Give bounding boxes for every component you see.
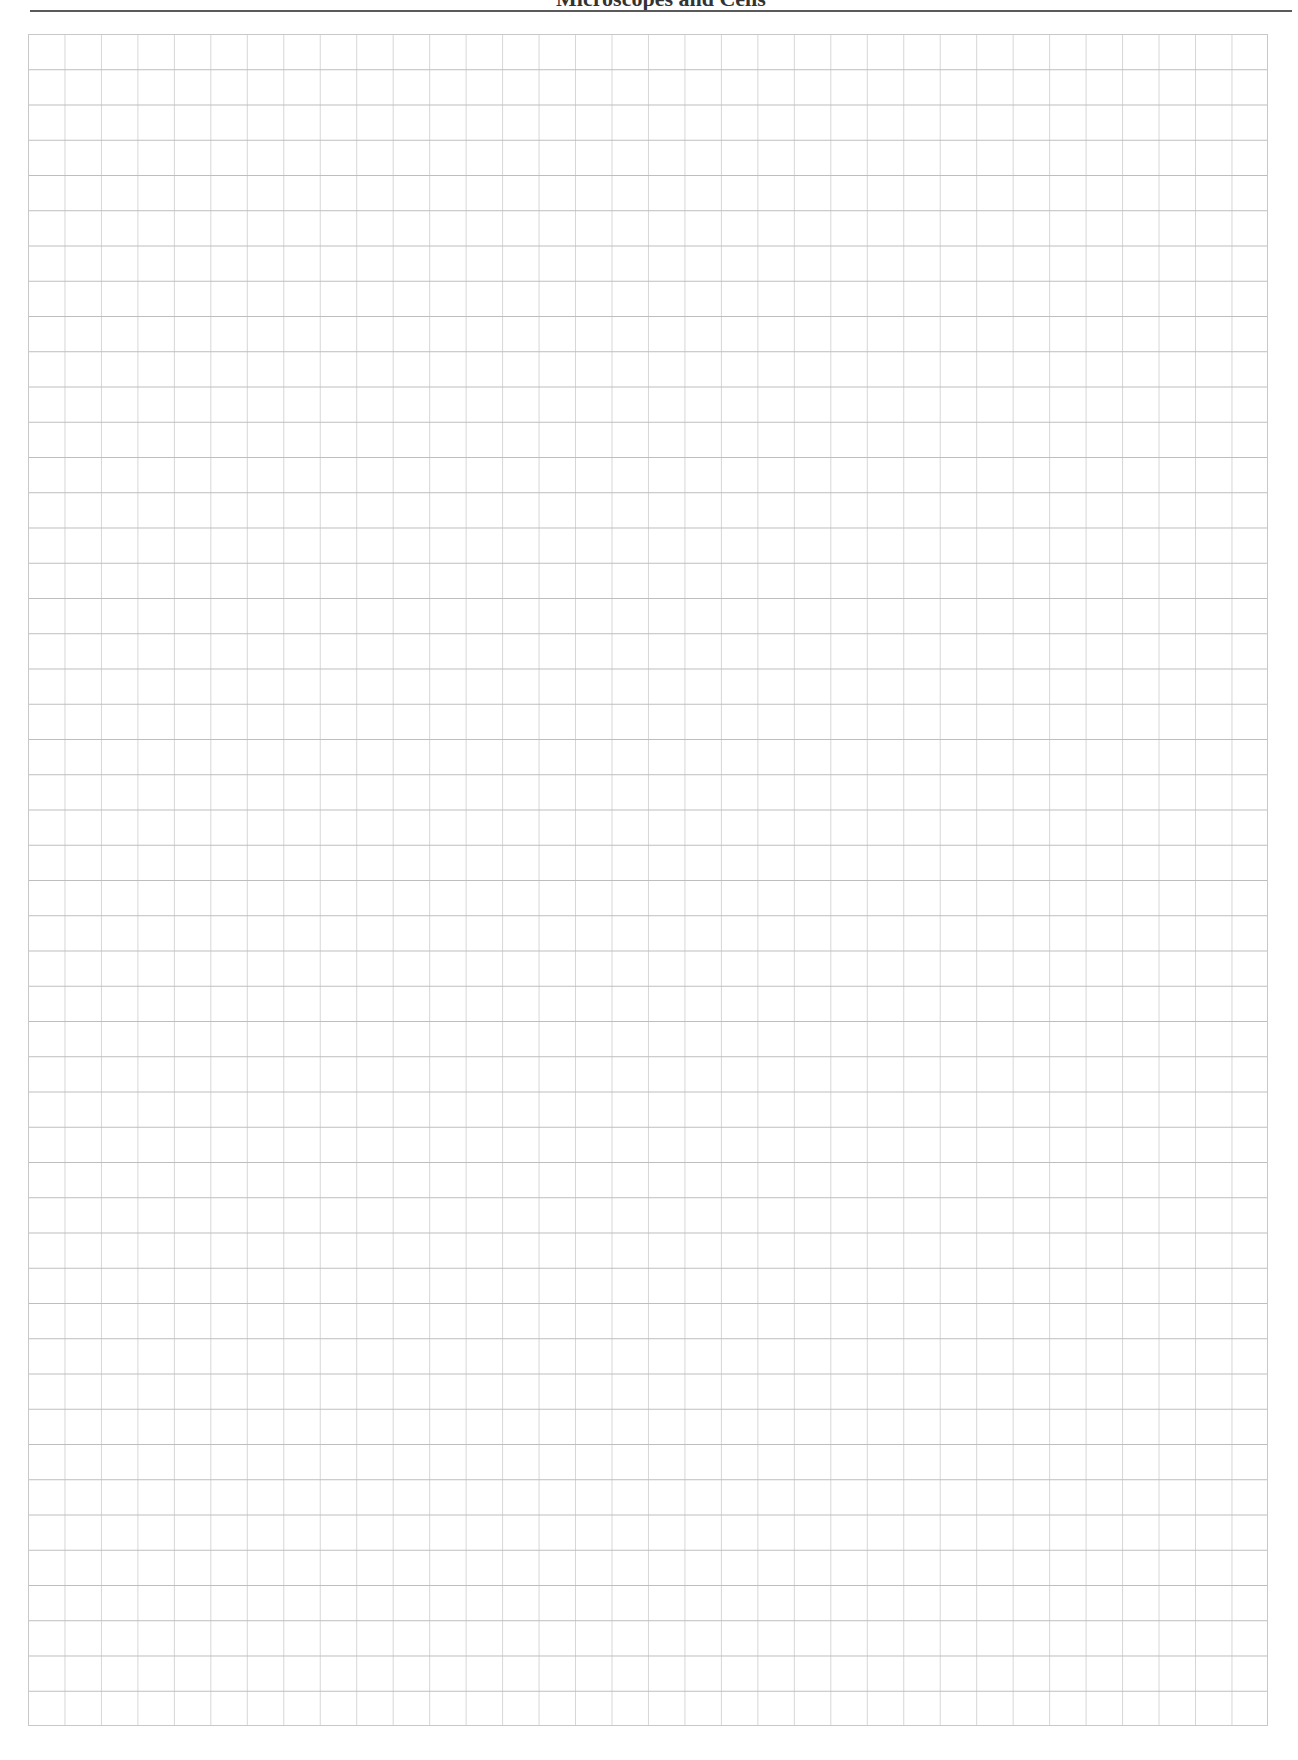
header-rule-divider xyxy=(30,10,1292,12)
graph-paper-grid xyxy=(28,34,1268,1726)
page-title: Microscopes and Cells xyxy=(556,0,766,10)
